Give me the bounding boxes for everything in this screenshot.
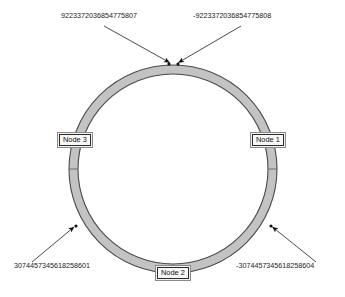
- node-label-node-2: Node 2: [157, 267, 189, 279]
- hash-label-max-positive: 9223372036854775807: [61, 11, 137, 20]
- contact-point-bottom-right: [269, 224, 272, 227]
- hash-label-min-negative: -9223372036854775808: [193, 11, 271, 20]
- hash-label-third-negative: -3074457345618258604: [236, 261, 314, 270]
- ring-graphic: [0, 0, 345, 297]
- leader-line-hash-third-negative: [273, 227, 317, 262]
- node-label-node-3: Node 3: [59, 134, 91, 146]
- leader-line-hash-third-positive: [32, 227, 74, 262]
- contact-point-bottom-left: [74, 224, 77, 227]
- hash-label-third-positive: 3074457345618258601: [14, 261, 90, 270]
- node-label-box-node-1[interactable]: Node 1: [250, 132, 286, 148]
- contact-point-top-right: [176, 62, 179, 65]
- leader-line-hash-min-negative: [179, 26, 242, 63]
- ring-inner-circle: [78, 74, 268, 264]
- contact-point-top-left: [167, 62, 170, 65]
- leader-line-hash-max-positive: [104, 26, 170, 63]
- node-label-box-node-3[interactable]: Node 3: [57, 132, 93, 148]
- node-label-node-1: Node 1: [252, 134, 284, 146]
- consistent-hashing-ring-diagram: 9223372036854775807 -9223372036854775808…: [0, 0, 345, 297]
- node-label-box-node-2[interactable]: Node 2: [155, 265, 191, 281]
